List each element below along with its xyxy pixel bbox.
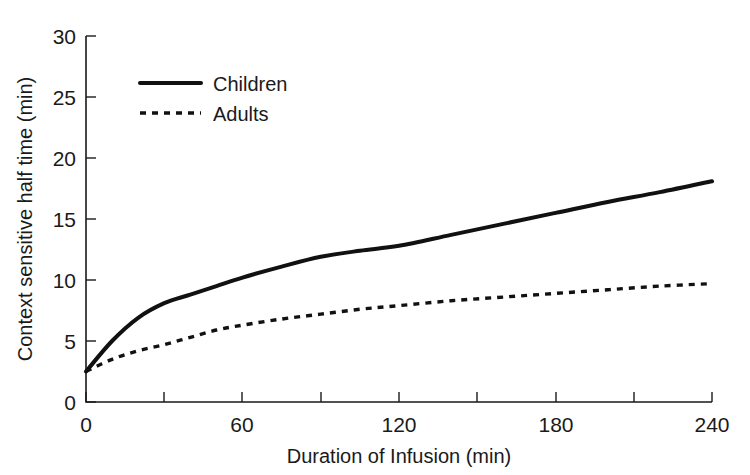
x-tick-label: 60 xyxy=(230,413,253,436)
x-tick-label: 240 xyxy=(694,413,729,436)
y-axis-ticks xyxy=(86,36,96,402)
x-tick-label: 120 xyxy=(381,413,416,436)
legend-label-children: Children xyxy=(213,73,287,95)
y-tick-labels: 30 25 20 15 10 5 0 xyxy=(53,25,76,414)
x-tick-labels: 0 60 120 180 240 xyxy=(80,413,729,436)
axis-spines xyxy=(86,36,712,402)
series-line-children xyxy=(86,181,712,371)
y-tick-label: 25 xyxy=(53,86,76,109)
chart-canvas: 30 25 20 15 10 5 0 0 60 120 180 240 Dura… xyxy=(0,0,750,475)
legend: Children Adults xyxy=(140,73,287,125)
chart-figure: 30 25 20 15 10 5 0 0 60 120 180 240 Dura… xyxy=(0,0,750,475)
y-tick-label: 10 xyxy=(53,269,76,292)
x-tick-label: 180 xyxy=(538,413,573,436)
x-tick-label: 0 xyxy=(80,413,92,436)
y-tick-label: 20 xyxy=(53,147,76,170)
y-tick-label: 0 xyxy=(64,391,76,414)
y-tick-label: 5 xyxy=(64,330,76,353)
y-tick-label: 30 xyxy=(53,25,76,48)
legend-label-adults: Adults xyxy=(213,103,269,125)
y-axis-title: Context sensitive half time (min) xyxy=(14,77,36,362)
x-axis-title: Duration of Infusion (min) xyxy=(287,445,512,467)
x-axis-ticks xyxy=(86,392,712,402)
y-tick-label: 15 xyxy=(53,208,76,231)
